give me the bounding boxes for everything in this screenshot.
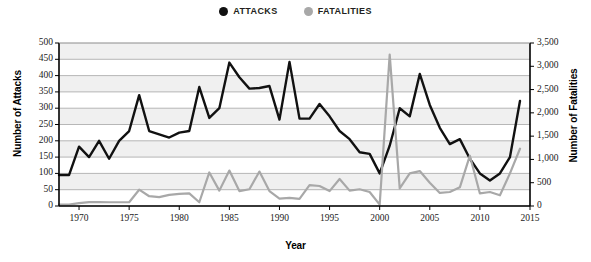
y-right-tick-label: 500 — [537, 177, 577, 187]
legend-label-fatalities: FATALITIES — [318, 6, 372, 16]
x-tick-label: 2015 — [510, 213, 550, 223]
chart-legend: ATTACKS FATALITIES — [0, 6, 591, 16]
y-left-tick-label: 450 — [17, 53, 53, 63]
y-right-tick-label: 1,500 — [537, 130, 577, 140]
x-tick-label: 1980 — [159, 213, 199, 223]
y-left-tick-label: 500 — [17, 37, 53, 47]
plot-background-bands — [59, 43, 530, 190]
legend-item-fatalities: FATALITIES — [304, 6, 372, 16]
y-left-tick-label: 200 — [17, 135, 53, 145]
y-left-tick-label: 250 — [17, 119, 53, 129]
y-right-tick-label: 3,500 — [537, 37, 577, 47]
y-right-tick-label: 2,000 — [537, 107, 577, 117]
y-left-tick-label: 50 — [17, 184, 53, 194]
x-tick-label: 1990 — [259, 213, 299, 223]
y-left-tick-label: 400 — [17, 70, 53, 80]
y-left-tick-label: 150 — [17, 151, 53, 161]
y-left-tick-label: 0 — [17, 200, 53, 210]
y-right-tick-label: 1,000 — [537, 153, 577, 163]
legend-marker-fatalities — [304, 7, 313, 16]
x-tick-label: 2010 — [460, 213, 500, 223]
x-tick-label: 1995 — [310, 213, 350, 223]
y-right-tick-label: 2,500 — [537, 84, 577, 94]
chart-container: ATTACKS FATALITIES Number of Attacks Num… — [0, 0, 591, 262]
x-tick-label: 1970 — [59, 213, 99, 223]
legend-item-attacks: ATTACKS — [219, 6, 277, 16]
x-tick-label: 2000 — [360, 213, 400, 223]
x-axis-title: Year — [0, 240, 591, 251]
x-tick-label: 1975 — [109, 213, 149, 223]
x-tick-label: 2005 — [410, 213, 450, 223]
y-right-tick-label: 0 — [537, 200, 577, 210]
legend-marker-attacks — [219, 7, 228, 16]
y-left-tick-label: 300 — [17, 102, 53, 112]
y-left-tick-label: 350 — [17, 86, 53, 96]
x-tick-label: 1985 — [209, 213, 249, 223]
legend-label-attacks: ATTACKS — [233, 6, 277, 16]
y-right-tick-label: 3,000 — [537, 60, 577, 70]
y-left-tick-label: 100 — [17, 167, 53, 177]
